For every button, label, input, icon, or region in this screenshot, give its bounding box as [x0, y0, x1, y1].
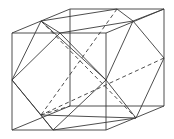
solid-edge [133, 9, 164, 21]
cube-polyhedron-diagram [0, 0, 174, 139]
solid-edge [41, 21, 60, 33]
solid-edge [117, 9, 133, 21]
solid-edge [106, 80, 136, 118]
cube-wireframe [12, 9, 164, 130]
solid-edge [53, 80, 106, 130]
polyhedron-hidden-edges [41, 9, 164, 118]
solid-edge [12, 80, 41, 115]
solid-edge [12, 33, 60, 80]
solid-edge [60, 21, 133, 33]
solid-edge [41, 115, 53, 130]
polyhedron-solid-edges [12, 9, 164, 130]
solid-edge [41, 21, 106, 80]
solid-edge [41, 115, 136, 118]
solid-edge [12, 21, 41, 80]
solid-edge [136, 58, 164, 118]
solid-edge [12, 106, 70, 130]
solid-edge [53, 118, 136, 130]
solid-edge [41, 9, 117, 21]
solid-edge [133, 21, 164, 58]
hidden-edge [41, 21, 136, 118]
solid-edge [106, 21, 133, 80]
